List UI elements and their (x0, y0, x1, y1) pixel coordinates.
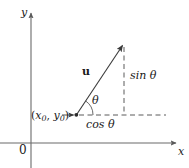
base-point-separator: , (47, 109, 54, 122)
base-point-x-symbol: x (35, 109, 41, 122)
base-point-dot (74, 113, 78, 117)
angle-theta-label: θ (92, 95, 99, 106)
x-axis-label: x (178, 146, 184, 157)
vector-u-label: u (82, 66, 90, 77)
base-point-label: (x0, y0) (31, 110, 69, 121)
y-axis-label: y (21, 7, 27, 18)
trigonometry-vector-figure: y x 0 u sin θ cos θ θ (x0, y0) (0, 0, 189, 168)
cos-theta-label: cos θ (86, 119, 115, 130)
base-point-x-subscript: 0 (42, 114, 47, 123)
vector-u-arrow (77, 46, 123, 115)
origin-label: 0 (19, 144, 27, 156)
base-point-paren-close: ) (65, 109, 69, 122)
sin-theta-label: sin θ (130, 70, 156, 81)
figure-canvas (0, 0, 189, 168)
base-point-y-subscript: 0 (60, 114, 65, 123)
base-point-y-symbol: y (54, 109, 60, 122)
